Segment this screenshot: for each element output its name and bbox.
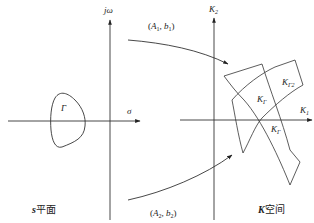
- s-plane-caption: s平面: [32, 205, 56, 215]
- k1-sub: 1: [306, 110, 309, 116]
- k-space-caption-k: K: [258, 204, 265, 215]
- mapping-diagram: [0, 0, 314, 223]
- k2-axis-label: K2: [209, 5, 218, 15]
- mapping-arrow-2: [128, 155, 232, 200]
- paren-close: ): [172, 21, 175, 31]
- mapping-label-1: (A1, b1): [148, 22, 175, 32]
- k-gamma2-label: KΓ2: [282, 78, 294, 88]
- k-gamma-label-1: KΓ: [257, 95, 266, 105]
- s-plane-caption-text: 平面: [36, 204, 56, 215]
- k-space-caption-text: 空间: [265, 204, 285, 215]
- k1-axis-label: K1: [300, 106, 309, 116]
- mapping-arrow-1: [128, 40, 228, 64]
- sigma-axis-label: σ: [127, 107, 131, 116]
- k-space-caption: K空间: [258, 205, 285, 215]
- k2-sub: 2: [215, 9, 218, 15]
- gamma-contour: [51, 93, 86, 147]
- jw-axis-label: jω: [104, 6, 113, 15]
- k-gamma-sub: Γ: [263, 99, 266, 105]
- k-gamma2-sub: Γ2: [288, 82, 294, 88]
- gamma-label: Γ: [61, 104, 66, 113]
- k-gamma-label-2: KΓ: [271, 125, 280, 135]
- paren-close: ): [174, 208, 177, 218]
- mapping-label-2: (A2, b2): [150, 209, 177, 219]
- k-gamma-sub: Γ: [277, 129, 280, 135]
- k-region-2: [232, 60, 303, 153]
